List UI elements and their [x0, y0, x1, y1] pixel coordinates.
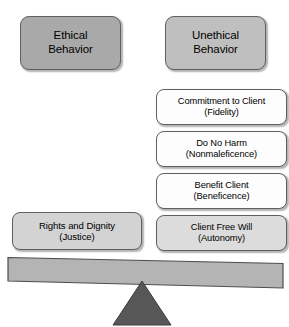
unethical-behavior-label: Unethical Behavior	[189, 29, 242, 56]
principle-box-autonomy: Client Free Will (Autonomy)	[156, 215, 287, 251]
fulcrum-triangle-icon	[108, 278, 178, 327]
principle-box-justice: Rights and Dignity (Justice)	[12, 212, 142, 250]
principle-box-beneficence: Benefit Client (Beneficence)	[156, 173, 287, 209]
ethical-behavior-box: Ethical Behavior	[20, 16, 121, 70]
principle-label-justice: Rights and Dignity (Justice)	[36, 220, 118, 243]
unethical-behavior-box: Unethical Behavior	[165, 16, 266, 70]
principle-label-beneficence: Benefit Client (Beneficence)	[190, 180, 252, 202]
diagram-canvas: Ethical Behavior Unethical Behavior Comm…	[0, 0, 289, 327]
principle-label-fidelity: Commitment to Client (Fidelity)	[175, 96, 268, 118]
principle-box-fidelity: Commitment to Client (Fidelity)	[156, 89, 287, 125]
principle-label-autonomy: Client Free Will (Autonomy)	[188, 222, 255, 244]
ethical-behavior-label: Ethical Behavior	[45, 29, 96, 56]
principle-label-nonmaleficence: Do No Harm (Nonmaleficence)	[183, 138, 260, 160]
principle-box-nonmaleficence: Do No Harm (Nonmaleficence)	[156, 131, 287, 167]
fulcrum-shape	[113, 281, 171, 325]
